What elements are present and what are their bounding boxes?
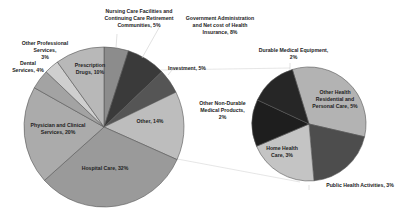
label-dental: Dental Services, 4% [10, 60, 46, 74]
label-public-health: Public Health Activities, 3% [320, 182, 400, 189]
label-other-professional: Other Professional Services, 3% [10, 40, 80, 60]
label-prescription: Prescription Drugs, 10% [70, 62, 110, 76]
label-nursing-care: Nursing Care Facilities and Continuing C… [104, 8, 174, 28]
label-other: Other, 14% [130, 118, 170, 125]
label-hospital-care: Hospital Care, 32% [75, 165, 135, 172]
label-other-health-residential: Other Health Residential and Personal Ca… [310, 89, 360, 109]
label-investment: Investment, 5% [167, 65, 207, 72]
breakout-pie [252, 67, 366, 181]
label-durable-medical: Durable Medical Equipment, 2% [256, 47, 331, 61]
label-home-health: Home Health Care, 3% [262, 145, 302, 159]
label-other-nondurable: Other Non-Durable Medical Products, 2% [195, 100, 250, 120]
label-physician: Physician and Clinical Services, 20% [28, 122, 88, 136]
label-government-admin: Government Administration and Net cost o… [185, 15, 255, 35]
